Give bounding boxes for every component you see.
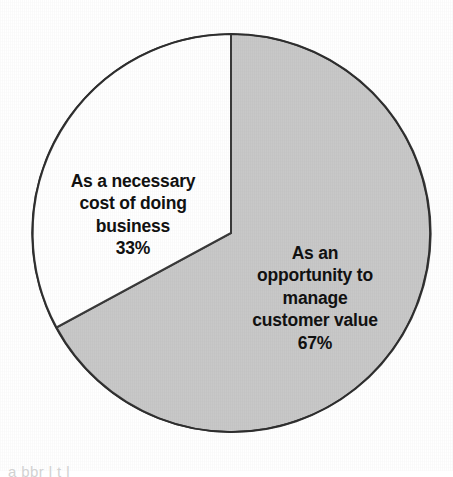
clipped-caption-text: a bbr l t l [0, 463, 453, 477]
